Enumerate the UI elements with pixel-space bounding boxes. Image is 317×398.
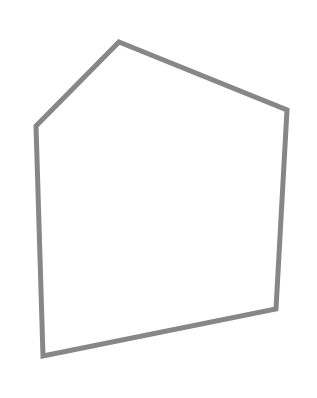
pentagon-outline (36, 42, 287, 356)
drawing-canvas (0, 0, 317, 398)
